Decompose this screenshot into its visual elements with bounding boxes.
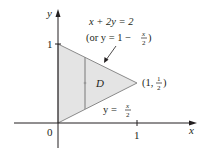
upper-line-equation: x + 2y = 2 (88, 16, 134, 27)
vertex-label-den: 2 (157, 84, 161, 92)
pointer-arrow-line (106, 46, 116, 60)
diagram-canvas: y x 0 1 1 D x + 2y = 2 (or y = 1 − x 2 )… (0, 0, 209, 155)
lower-line-den: 2 (126, 111, 130, 119)
x-axis-label: x (188, 124, 194, 136)
vertex-label-num: 1 (157, 75, 161, 83)
lower-line-prefix: y = (103, 104, 117, 115)
x-tick-label: 1 (134, 129, 140, 141)
vertex-label-suffix: ) (163, 77, 167, 89)
upper-line-alt-prefix: (or y = 1 − (86, 32, 131, 44)
y-axis-arrow-icon (56, 9, 61, 17)
y-axis-label: y (46, 7, 52, 19)
upper-line-alt-den: 2 (142, 39, 146, 47)
lower-line-num: x (125, 102, 130, 110)
y-tick-label: 1 (47, 38, 53, 50)
vertex-label-prefix: (1, (142, 77, 153, 89)
region-label: D (95, 77, 104, 89)
upper-line-alt-suffix: ) (148, 32, 152, 44)
origin-label: 0 (47, 126, 53, 138)
strip-midpoint-dot (84, 82, 87, 85)
upper-line-alt-num: x (141, 30, 146, 38)
